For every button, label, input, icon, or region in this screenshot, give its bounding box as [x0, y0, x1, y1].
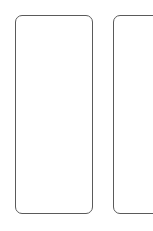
card-right-content [114, 16, 153, 213]
card-left[interactable] [15, 15, 93, 214]
card-left-content [16, 16, 92, 213]
card-right[interactable] [113, 15, 153, 214]
page-canvas [0, 0, 153, 231]
